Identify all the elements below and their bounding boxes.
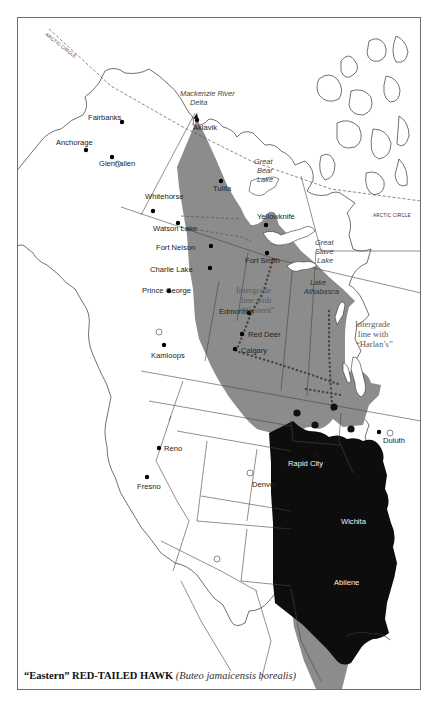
city-dot bbox=[264, 223, 268, 227]
city-label: Yellowknife bbox=[257, 212, 295, 221]
arctic-circle-label-nw: ARCTIC CIRCLE bbox=[44, 32, 77, 59]
city-label: Fresno bbox=[137, 482, 161, 491]
city-label: Watson Lake bbox=[153, 224, 197, 233]
city-label: Fairbanks bbox=[88, 113, 122, 122]
intergrade-harlans-label: Intergrade bbox=[355, 319, 390, 329]
intergrade-harlans-label-3: “Harlan’s” bbox=[356, 339, 393, 349]
city-label: Red Deer bbox=[248, 330, 281, 339]
mackenzie-label-2: Delta bbox=[190, 98, 207, 107]
arctic-islands bbox=[317, 36, 409, 195]
open-record-circle bbox=[247, 470, 253, 476]
great-bear-label-3: Lake bbox=[257, 175, 273, 184]
record-dot bbox=[293, 409, 300, 416]
city-label: Kamloops bbox=[151, 351, 185, 360]
great-slave-label: Great bbox=[315, 238, 334, 247]
city-dot bbox=[240, 332, 244, 336]
athabasca-label: Lake bbox=[310, 278, 326, 287]
city-label: Prince George bbox=[142, 286, 191, 295]
city-dot bbox=[162, 343, 166, 347]
scientific-name: (Buteo jamaicensis borealis) bbox=[176, 670, 296, 681]
intergrade-western-label-2: line with bbox=[241, 295, 272, 305]
great-bear-label: Great bbox=[254, 157, 273, 166]
year-round-range-black bbox=[269, 421, 397, 665]
range-map: ARCTIC CIRCLE ARCTIC CIRCLE Mackenzie Ri… bbox=[17, 17, 421, 690]
city-dot bbox=[157, 446, 161, 450]
city-label: Reno bbox=[164, 444, 182, 453]
city-dot bbox=[208, 266, 212, 270]
city-label: Fort Nelson bbox=[156, 243, 195, 252]
city-label: Denver bbox=[252, 480, 277, 489]
city-label: Charlie Lake bbox=[150, 265, 193, 274]
city-label: Whitehorse bbox=[145, 192, 183, 201]
great-bear-label-2: Bear bbox=[257, 166, 273, 175]
city-dot bbox=[377, 430, 381, 434]
open-record-circle bbox=[214, 556, 220, 562]
city-label: Wichita bbox=[341, 517, 367, 526]
city-dot bbox=[195, 118, 199, 122]
common-name: “Eastern” RED-TAILED HAWK bbox=[24, 670, 173, 681]
city-dot bbox=[209, 244, 213, 248]
city-label: Rapid City bbox=[288, 459, 323, 468]
open-record-circle bbox=[156, 329, 162, 335]
mackenzie-label: Mackenzie River bbox=[180, 89, 235, 98]
city-dot bbox=[145, 475, 149, 479]
record-dot bbox=[347, 425, 354, 432]
arctic-circle-label-e: ARCTIC CIRCLE bbox=[373, 213, 411, 218]
map-caption: “Eastern” RED-TAILED HAWK (Buteo jamaice… bbox=[24, 670, 296, 681]
city-label: Anchorage bbox=[56, 138, 93, 147]
city-dot bbox=[233, 347, 237, 351]
city-dot bbox=[265, 251, 269, 255]
city-dot bbox=[84, 148, 88, 152]
great-slave-label-2: Slave bbox=[315, 247, 334, 256]
athabasca-label-2: Athabasca bbox=[303, 287, 339, 296]
map-canvas: ARCTIC CIRCLE ARCTIC CIRCLE Mackenzie Ri… bbox=[18, 18, 421, 690]
city-label: Edmonton bbox=[219, 307, 254, 316]
intergrade-harlans-label-2: line with bbox=[358, 329, 389, 339]
city-label: Duluth bbox=[383, 436, 405, 445]
city-dot bbox=[151, 209, 155, 213]
record-dot bbox=[311, 421, 318, 428]
city-dot bbox=[219, 179, 223, 183]
city-label: Calgary bbox=[241, 346, 267, 355]
breeding-range-gray bbox=[177, 119, 381, 433]
city-label: Tulita bbox=[213, 184, 232, 193]
record-dot bbox=[312, 450, 319, 457]
city-label: Abilene bbox=[334, 578, 359, 587]
city-label: Fort Smith bbox=[245, 256, 280, 265]
intergrade-western-label: Intergrade bbox=[236, 285, 271, 295]
great-slave-label-3: Lake bbox=[317, 256, 333, 265]
city-label: Aklavik bbox=[193, 123, 217, 132]
record-dot bbox=[330, 403, 337, 410]
